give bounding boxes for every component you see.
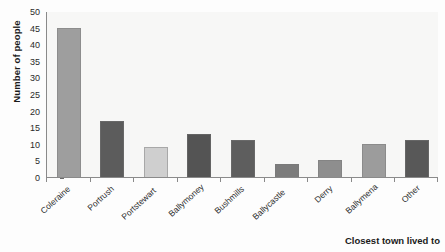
x-category-label: Bushmills [213, 185, 246, 216]
x-tick-mark [264, 178, 265, 182]
bar-slot [265, 12, 309, 177]
x-tick-mark [46, 178, 47, 182]
x-tick-mark [437, 178, 438, 182]
x-axis-title: Closest town lived to [345, 235, 440, 246]
bar-slot [308, 12, 352, 177]
x-category-label: Ballymoney [167, 183, 205, 219]
x-category-label: Derry [313, 184, 334, 204]
bar[interactable] [231, 140, 255, 177]
x-category-label: Ballycastle [251, 188, 287, 222]
bars-layer [47, 12, 438, 177]
bar[interactable] [275, 164, 299, 177]
y-tick-label: 0 [18, 174, 40, 183]
y-tick-label: 30 [18, 74, 40, 83]
x-tick-mark [90, 178, 91, 182]
bar-chart-figure: Number of people 05101520253035404550 Co… [0, 0, 445, 252]
bar-slot [47, 12, 91, 177]
bar[interactable] [144, 147, 168, 177]
x-tick-mark [351, 178, 352, 182]
bar[interactable] [405, 140, 429, 177]
y-tick-label: 20 [18, 107, 40, 116]
x-category-label: Portstewart [120, 186, 158, 221]
bar[interactable] [187, 134, 211, 177]
bar-slot [178, 12, 222, 177]
y-tick-label: 40 [18, 41, 40, 50]
x-tick-mark [133, 178, 134, 182]
bar-slot [395, 12, 439, 177]
bar-slot [91, 12, 135, 177]
y-tick-label: 10 [18, 140, 40, 149]
x-axis-category-labels: ColerainePortrushPortstewartBallymoneyBu… [46, 183, 438, 231]
y-axis-tick-labels: 05101520253035404550 [18, 12, 40, 178]
x-category-label: Coleraine [39, 185, 72, 216]
plot-area [46, 12, 438, 178]
bar-slot [221, 12, 265, 177]
x-category-label: Portrush [86, 185, 116, 213]
x-category-label: Ballymena [344, 183, 379, 216]
bar[interactable] [100, 121, 124, 177]
x-tick-mark [394, 178, 395, 182]
bar[interactable] [318, 160, 342, 177]
x-tick-mark [307, 178, 308, 182]
bar[interactable] [362, 144, 386, 177]
bar-slot [134, 12, 178, 177]
y-tick-label: 35 [18, 57, 40, 66]
y-tick-label: 15 [18, 124, 40, 133]
x-tick-mark [177, 178, 178, 182]
x-category-label: Other [400, 183, 421, 204]
y-tick-label: 5 [18, 157, 40, 166]
bar[interactable] [57, 28, 81, 177]
x-tick-mark [220, 178, 221, 182]
y-tick-label: 45 [18, 24, 40, 33]
y-tick-label: 50 [18, 8, 40, 17]
bar-slot [352, 12, 396, 177]
y-tick-label: 25 [18, 91, 40, 100]
